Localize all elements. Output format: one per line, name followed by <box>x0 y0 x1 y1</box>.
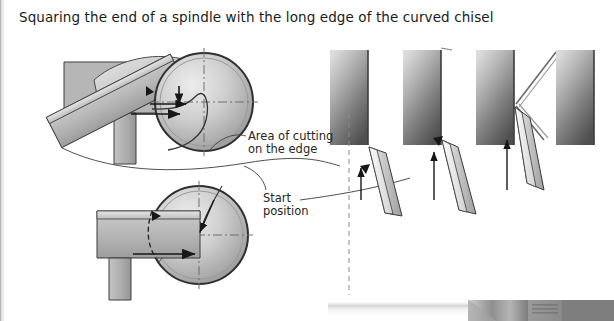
chisel-lower <box>97 211 200 258</box>
figure-upper-left <box>46 48 258 164</box>
panel-cut-begins <box>403 48 476 214</box>
panel-start-position <box>330 50 402 321</box>
diagram-page: Squaring the end of a spindle with the l… <box>0 0 614 321</box>
tool-rest-post-upper <box>114 113 136 164</box>
figure-lower-left <box>97 181 253 300</box>
workshop-photo-strip <box>320 295 614 321</box>
callout-start-position: Start position <box>263 192 309 217</box>
panel-chisel-rotated <box>476 50 559 190</box>
chisel-panel-3 <box>515 107 544 190</box>
tool-rest-post-lower <box>109 258 131 300</box>
technical-diagram <box>0 0 614 321</box>
leader-start-position-up <box>244 166 266 190</box>
chisel-panel-2 <box>442 140 476 214</box>
guide-line-panel-2 <box>441 48 452 50</box>
callout-area-of-cutting: Area of cutting on the edge <box>248 130 333 155</box>
panel-finished-end <box>556 50 594 145</box>
